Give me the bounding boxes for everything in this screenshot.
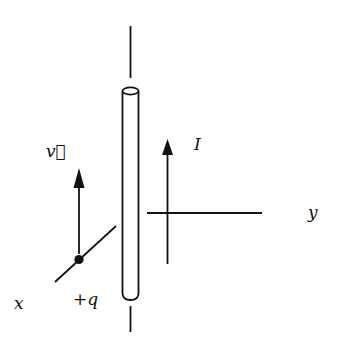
x-axis-label: x	[14, 295, 24, 312]
y-axis-label: y	[308, 204, 318, 221]
diagram-canvas	[0, 0, 337, 346]
charge-label: +q	[73, 291, 98, 308]
wire-cylinder	[123, 87, 139, 300]
charge-dot	[74, 255, 83, 264]
current-label: I	[194, 136, 201, 153]
current-arrow	[162, 139, 173, 264]
diagram: v⃗ I y x +q	[0, 0, 337, 346]
velocity-label: v⃗	[46, 143, 66, 160]
velocity-arrow	[74, 168, 85, 254]
x-axis-line	[55, 226, 116, 282]
